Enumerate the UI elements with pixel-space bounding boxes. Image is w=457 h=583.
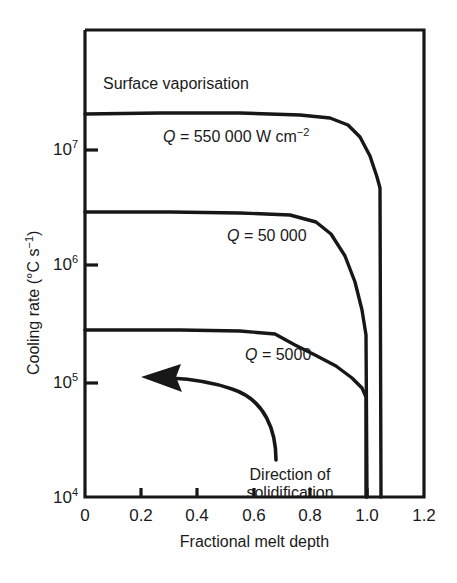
x-tick-label-1-2: 1.2 (404, 507, 444, 524)
curve-label-q-50000: Q = 50 000 (227, 228, 307, 244)
direction-of-solidification-arrow-head (141, 364, 182, 392)
plot-frame (85, 30, 424, 497)
x-axis-title: Fractional melt depth (85, 534, 424, 550)
figure-container: 107 106 105 104 0 0.2 0.4 0.6 0.8 1.0 1.… (0, 0, 457, 583)
x-tick-label-0-2: 0.2 (121, 507, 161, 524)
y-axis-title: Cooling rate (°C s−1) (26, 231, 42, 375)
y-axis-ticks (85, 150, 98, 383)
annotation-surface-vaporisation: Surface vaporisation (103, 76, 249, 92)
y-tick-label-1e5: 105 (38, 374, 78, 391)
direction-line-1: Direction of (225, 466, 355, 484)
curve-label-q-5000: Q = 5000 (245, 347, 311, 363)
curve-q-550000 (85, 113, 381, 497)
x-tick-label-1-0: 1.0 (347, 507, 387, 524)
x-tick-label-0-4: 0.4 (177, 507, 217, 524)
curve-label-q-550000: Q = 550 000 W cm−2 (163, 129, 309, 145)
x-tick-label-0-8: 0.8 (290, 507, 330, 524)
y-tick-label-1e4: 104 (38, 489, 78, 506)
annotation-direction-of-solidification: Direction of solidification (225, 466, 355, 503)
direction-of-solidification-arrow-shaft (170, 378, 276, 460)
x-tick-label-0: 0 (65, 507, 105, 524)
x-tick-label-0-6: 0.6 (234, 507, 274, 524)
y-tick-label-1e6: 106 (38, 256, 78, 273)
y-tick-label-1e7: 107 (38, 141, 78, 158)
direction-line-2: solidification (225, 484, 355, 502)
curve-q-50000 (85, 212, 367, 497)
